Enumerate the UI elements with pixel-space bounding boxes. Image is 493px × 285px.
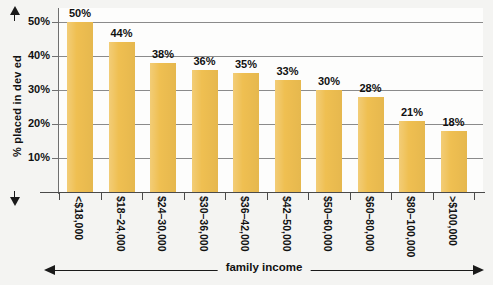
- y-axis-tick-label: 30%: [6, 83, 50, 95]
- chart-figure: % placed in dev ed 10%20%30%40%50% 50%44…: [0, 0, 493, 285]
- gridline: [58, 22, 483, 23]
- y-axis-tick-mark: [52, 22, 58, 23]
- x-axis-tick-mark: [391, 193, 392, 200]
- x-axis-tick-mark: [308, 193, 309, 200]
- x-axis-category-label: $36–42,000: [239, 196, 251, 251]
- x-axis-tick-mark: [225, 193, 226, 200]
- x-axis-category-label: $80–100,000: [405, 196, 417, 257]
- bar[interactable]: [150, 63, 176, 192]
- y-axis-tick-label: 40%: [6, 49, 50, 61]
- x-axis-tick-mark: [267, 193, 268, 200]
- bar[interactable]: [441, 131, 467, 192]
- bar[interactable]: [233, 73, 259, 192]
- x-axis-category-label: $50–60,000: [322, 196, 334, 251]
- x-axis-tick-mark: [142, 193, 143, 200]
- x-axis-category-label: $30–36,000: [198, 196, 210, 251]
- y-axis-tick-mark: [52, 158, 58, 159]
- x-axis-category-label: $60–80,000: [364, 196, 376, 251]
- bar[interactable]: [358, 97, 384, 192]
- x-axis-tick-mark: [184, 193, 185, 200]
- x-axis-caption: family income: [44, 262, 484, 278]
- x-axis-tick-mark: [101, 193, 102, 200]
- bar[interactable]: [316, 90, 342, 192]
- bar[interactable]: [275, 80, 301, 192]
- x-axis-title: family income: [218, 261, 311, 273]
- y-axis-tick-mark: [52, 124, 58, 125]
- x-axis-tick-mark: [474, 193, 475, 200]
- bar[interactable]: [109, 42, 135, 192]
- x-axis-category-label: <$18,000: [73, 196, 85, 240]
- x-axis-tick-mark: [59, 193, 60, 200]
- x-axis-category-label: >$100,000: [447, 196, 459, 246]
- x-axis-tick-mark: [433, 193, 434, 200]
- y-axis-line: [58, 8, 59, 194]
- x-axis-category-label: $18–24,000: [115, 196, 127, 251]
- bar-value-label: 44%: [98, 27, 146, 39]
- y-axis-tick-mark: [52, 56, 58, 57]
- bar-value-label: 28%: [347, 82, 395, 94]
- bar[interactable]: [192, 70, 218, 192]
- y-axis-title: % placed in dev ed: [9, 21, 25, 191]
- bar-value-label: 18%: [430, 116, 478, 128]
- bar[interactable]: [67, 22, 93, 192]
- y-axis-caption: % placed in dev ed: [0, 6, 30, 206]
- x-axis-category-label: $24–30,000: [156, 196, 168, 251]
- x-axis-tick-mark: [350, 193, 351, 200]
- x-axis-line: [40, 192, 485, 193]
- y-axis-tick-label: 10%: [6, 151, 50, 163]
- x-axis-category-label: $42–50,000: [281, 196, 293, 251]
- y-axis-tick-mark: [52, 90, 58, 91]
- y-axis-tick-label: 50%: [6, 15, 50, 27]
- bar[interactable]: [399, 121, 425, 192]
- y-axis-tick-label: 20%: [6, 117, 50, 129]
- bar-value-label: 50%: [56, 7, 104, 19]
